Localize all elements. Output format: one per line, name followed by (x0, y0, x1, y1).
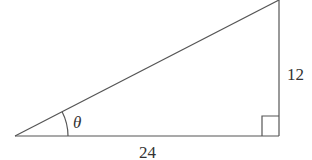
right-triangle-diagram: θ 12 24 (0, 0, 312, 160)
height-label: 12 (287, 65, 304, 84)
angle-label-theta: θ (73, 113, 81, 132)
base-label: 24 (139, 143, 157, 160)
triangle (15, 0, 279, 136)
right-angle-marker (262, 116, 279, 136)
angle-arc (62, 112, 68, 136)
hypotenuse (15, 0, 279, 136)
